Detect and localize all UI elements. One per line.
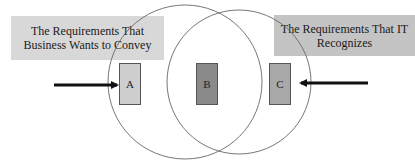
region-a-box: A <box>119 63 141 105</box>
region-b-label: B <box>203 78 210 90</box>
region-b-box: B <box>196 63 218 105</box>
region-c-label: C <box>276 78 283 90</box>
region-a-label: A <box>126 78 134 90</box>
region-c-box: C <box>269 63 291 105</box>
